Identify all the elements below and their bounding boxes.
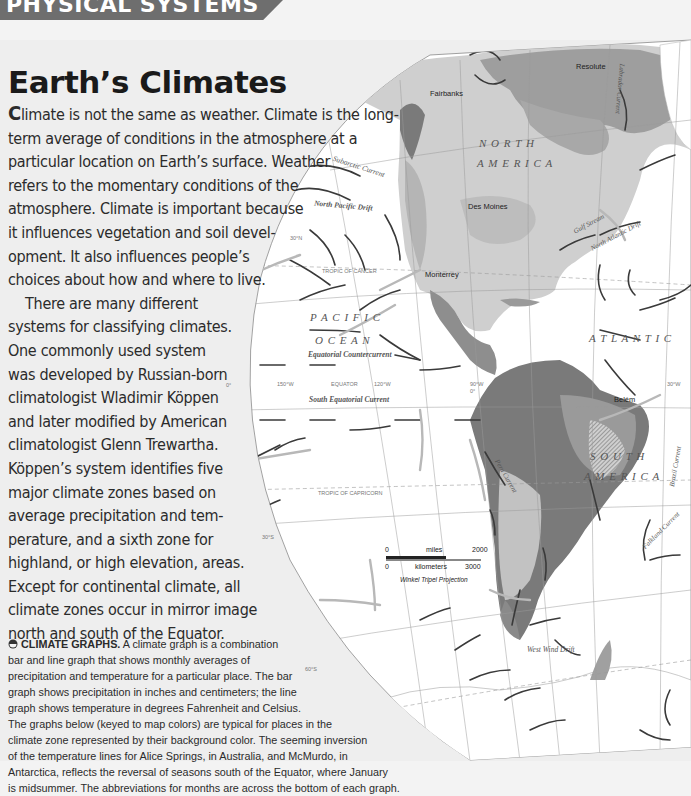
caption-line: of the temperature lines for Alice Sprin… xyxy=(8,748,400,764)
scale-miles-max: 2000 xyxy=(472,546,488,553)
body-line: Except for continental climate, all xyxy=(8,575,399,599)
body-line: climatologist Glenn Trewartha. xyxy=(8,433,399,457)
label-north-america-2: A M E R I C A xyxy=(477,157,553,169)
body-line: refers to the momentary conditions of th… xyxy=(8,174,399,198)
caption-line: is midsummer. The abbreviations for mont… xyxy=(8,780,400,796)
grid-label-30w: 30°W xyxy=(667,381,681,387)
body-line: There are many different xyxy=(8,292,399,316)
grid-label-90w: 90°W xyxy=(470,381,484,387)
body-line: it influences vegetation and soil devel- xyxy=(8,221,399,245)
body-line: was developed by Russian-born xyxy=(8,363,399,387)
body-line: climatologist Wladimir Köppen xyxy=(8,386,399,410)
label-atlantic: A T L A N T I C xyxy=(589,332,672,344)
body-line: Köppen’s system identifies five xyxy=(8,457,399,481)
body-line: term average of conditions in the atmosp… xyxy=(8,127,399,151)
caption-line: Antarctica, reflects the reversal of sea… xyxy=(8,764,400,780)
body-line: One commonly used system xyxy=(8,339,399,363)
caption-line: precipitation and temperature for a part… xyxy=(8,668,400,684)
body-line: perature, and a sixth zone for xyxy=(8,528,399,552)
article-body: Climate is not the same as weather. Clim… xyxy=(8,102,399,646)
label-north-america: N O R T H xyxy=(479,137,535,149)
caption-heading: CLIMATE GRAPHS. xyxy=(21,638,120,650)
label-south-america: S O U T H xyxy=(590,450,645,462)
scale-km-max: 3000 xyxy=(465,563,481,570)
city-resolute: Resolute xyxy=(576,62,606,71)
city-fairbanks: Fairbanks xyxy=(430,89,463,98)
scale-km-label: kilometers xyxy=(415,563,447,570)
label-south-america-2: A M E R I C A xyxy=(584,470,660,482)
body-line: systems for classifying climates. xyxy=(8,315,399,339)
body-line: atmosphere. Climate is important because xyxy=(8,197,399,221)
body-line: opment. It also influences people’s xyxy=(8,245,399,269)
body-line: average precipitation and tem- xyxy=(8,504,399,528)
caption-line: graph shows precipitation in inches and … xyxy=(8,684,400,700)
body-line: major climate zones based on xyxy=(8,481,399,505)
scale-bar-km xyxy=(386,559,481,561)
page-title: Earth’s Climates xyxy=(8,64,287,100)
body-line: choices about how and where to live. xyxy=(8,268,399,292)
climate-graphs-caption: CLIMATE GRAPHS. A climate graph is a com… xyxy=(8,636,400,796)
scale-miles-label: miles xyxy=(426,546,442,553)
body-line: climate zones occur in mirror image xyxy=(8,598,399,622)
body-line: particular location on Earth’s surface. … xyxy=(8,150,399,174)
caption-line: The graphs below (keyed to map colors) a… xyxy=(8,716,400,732)
body-line: highland, or high elevation, areas. xyxy=(8,551,399,575)
caption-line: bar and line graph that shows monthly av… xyxy=(8,652,400,668)
city-belem: Belém xyxy=(614,395,635,404)
label-west-wind-drift: West Wind Drift xyxy=(527,645,575,654)
circle-half-icon xyxy=(8,639,18,649)
city-des-moines: Des Moines xyxy=(468,202,508,211)
city-monterrey: Monterrey xyxy=(425,270,459,279)
projection-label: Winkel Tripel Projection xyxy=(400,576,468,583)
dropcap: C xyxy=(8,101,21,125)
caption-line: climate zone represented by their backgr… xyxy=(8,732,400,748)
caption-line-0: CLIMATE GRAPHS. A climate graph is a com… xyxy=(8,636,400,652)
body-line: and later modified by American xyxy=(8,410,399,434)
grid-label-0b: 0° xyxy=(470,388,475,394)
body-line-0: Climate is not the same as weather. Clim… xyxy=(8,102,399,127)
caption-line: graph shows temperature in degrees Fahre… xyxy=(8,700,400,716)
